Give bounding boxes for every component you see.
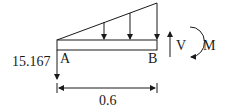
dimension-label: 0.6 [99,93,117,108]
free-body-diagram: 15.167 A B V M 0.6 [0,0,225,110]
reaction-value-label: 15.167 [12,54,51,69]
point-a-label: A [60,51,71,66]
point-b-label: B [148,51,157,66]
dimension-line [57,83,157,93]
shear-label: V [176,38,186,53]
distributed-load [57,3,157,40]
beam [57,40,157,50]
moment-label: M [203,38,216,53]
